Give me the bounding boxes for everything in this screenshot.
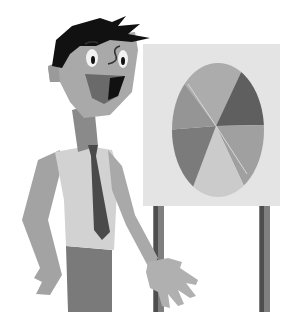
illustration	[0, 0, 299, 326]
left-arm	[22, 150, 62, 295]
pants	[66, 246, 112, 312]
shirt	[55, 146, 118, 250]
